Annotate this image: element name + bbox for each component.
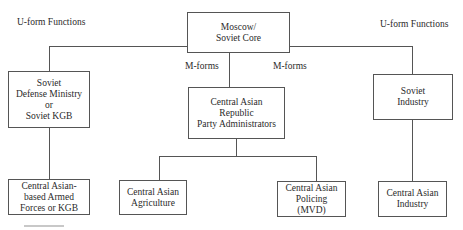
cropped-caption-fragment — [24, 225, 64, 227]
node-line: Industry — [397, 199, 429, 210]
node-line: Policing — [296, 194, 328, 205]
node-line: Central Asian — [211, 97, 263, 108]
connector-to-defense — [49, 46, 50, 72]
connector-moscow-to-republic — [229, 52, 230, 87]
uform-functions-right-label: U-form Functions — [380, 19, 448, 30]
node-line: Republic — [219, 108, 253, 119]
node-central-asian-republic-party: Central Asian Republic Party Administrat… — [188, 87, 285, 139]
node-central-asian-policing: Central Asian Policing (MVD) — [277, 181, 346, 217]
node-line: based Armed — [24, 192, 74, 203]
node-line: Party Administrators — [197, 119, 276, 130]
connector-to-industry — [412, 46, 413, 74]
node-soviet-industry: Soviet Industry — [373, 74, 453, 120]
connector-defense-to-armed — [49, 127, 50, 179]
node-line: or — [45, 100, 53, 111]
connector-republic-down — [236, 138, 237, 157]
node-central-asian-industry: Central Asian Industry — [378, 181, 447, 217]
node-line: Soviet KGB — [26, 111, 73, 122]
node-line: Defense Ministry — [16, 89, 82, 100]
node-moscow-soviet-core: Moscow/ Soviet Core — [187, 12, 290, 53]
node-line: Soviet — [37, 78, 61, 89]
node-central-asian-agriculture: Central Asian Agriculture — [119, 180, 187, 215]
node-line: Central Asian — [286, 183, 338, 194]
node-line: (MVD) — [297, 205, 326, 216]
mforms-left-label: M-forms — [185, 61, 219, 72]
node-line: Agriculture — [131, 198, 175, 209]
node-central-asian-armed-forces: Central Asian- based Armed Forces or KGB — [8, 179, 90, 215]
node-line: Moscow/ — [221, 22, 256, 33]
node-line: Central Asian — [127, 187, 179, 198]
node-line: Soviet — [401, 86, 425, 97]
node-line: Central Asian- — [21, 181, 76, 192]
node-line: Forces or KGB — [20, 203, 78, 214]
connector-industry-to-ca-industry — [412, 119, 413, 182]
mforms-right-label: M-forms — [273, 61, 307, 72]
connector-to-agriculture — [159, 156, 160, 180]
node-soviet-defense-ministry: Soviet Defense Ministry or Soviet KGB — [8, 71, 90, 128]
connector-bottom-horizontal — [159, 156, 317, 157]
uform-functions-left-label: U-form Functions — [17, 17, 85, 28]
node-line: Central Asian — [387, 188, 439, 199]
connector-to-policing — [316, 156, 317, 182]
node-line: Soviet Core — [216, 33, 261, 44]
node-line: Industry — [397, 97, 429, 108]
